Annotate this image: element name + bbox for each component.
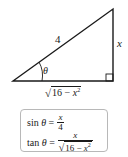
angle-arc [39, 62, 43, 81]
opposite-side-label: x [117, 38, 122, 49]
tan-var: θ [42, 137, 47, 148]
sin-fraction: x 4 [57, 113, 64, 132]
sin-var: θ [41, 117, 46, 128]
radicand: 16 − x2 [64, 141, 92, 153]
triangle-outline [13, 9, 113, 81]
sqrt-expression: √ 16 − x2 [45, 86, 81, 99]
tan-formula: tan θ = x √ 16 − x2 [27, 131, 93, 153]
sin-formula: sin θ = x 4 [27, 113, 64, 132]
radicand: 16 − x2 [51, 86, 81, 99]
formula-box: sin θ = x 4 tan θ = x √ 16 − x2 [20, 109, 108, 152]
right-angle-marker [106, 74, 113, 81]
sin-func: sin [27, 117, 39, 128]
tan-eq: = [49, 137, 55, 148]
angle-theta-label: θ [43, 66, 48, 76]
tan-denominator: √ 16 − x2 [58, 140, 93, 153]
tan-sqrt: √ 16 − x2 [59, 141, 92, 153]
sin-numerator: x [57, 113, 63, 122]
hypotenuse-label: 4 [55, 34, 61, 45]
tan-fraction: x √ 16 − x2 [58, 131, 93, 153]
tan-numerator: x [72, 131, 78, 140]
adjacent-side-label: √ 16 − x2 [45, 86, 81, 99]
sin-eq: = [49, 117, 55, 128]
tan-func: tan [27, 137, 39, 148]
